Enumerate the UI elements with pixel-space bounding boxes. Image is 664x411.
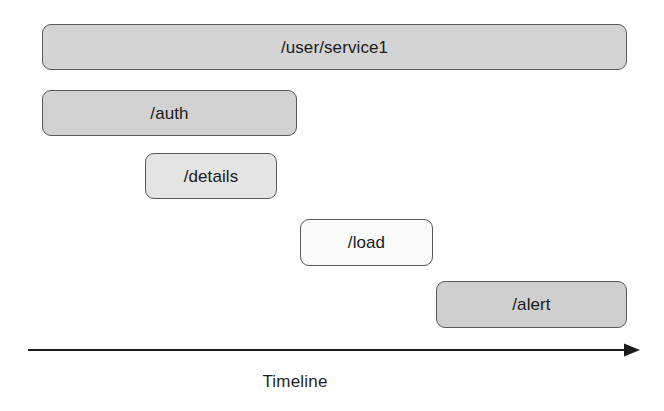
span-bar-load[interactable]: /load (300, 219, 433, 266)
span-timeline-diagram: /user/service1 /auth /details /load /ale… (0, 0, 664, 411)
span-bar-alert[interactable]: /alert (436, 281, 627, 328)
span-label-alert: /alert (512, 296, 550, 313)
span-label-load: /load (348, 234, 385, 251)
span-label-auth: /auth (150, 105, 188, 122)
span-label-user-service1: /user/service1 (281, 39, 388, 56)
timeline-axis-arrow-icon (0, 334, 664, 366)
span-label-details: /details (184, 168, 239, 185)
timeline-arrowhead-icon (624, 344, 640, 357)
span-bar-auth[interactable]: /auth (42, 90, 297, 136)
span-bar-details[interactable]: /details (145, 153, 277, 199)
timeline-caption: Timeline (0, 372, 590, 392)
span-bar-user-service1[interactable]: /user/service1 (42, 24, 627, 70)
